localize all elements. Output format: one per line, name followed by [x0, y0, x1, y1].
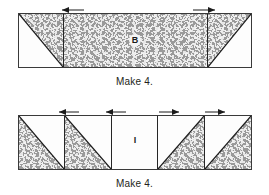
unit-b-caption: Make 4.	[0, 76, 269, 87]
press-arrow-left-b	[60, 4, 86, 13]
unit-b-left-hst	[19, 14, 64, 67]
unit-b-label: B	[129, 34, 141, 46]
press-arrow-3-i	[157, 106, 181, 115]
press-arrow-2-i	[104, 106, 128, 115]
seam-diagonal-icon	[65, 116, 111, 169]
unit-i-hst-4	[205, 116, 251, 169]
unit-i-label: I	[128, 136, 142, 145]
press-arrow-1-i	[57, 106, 81, 115]
press-arrow-right-b	[191, 4, 217, 13]
unit-i-caption: Make 4.	[0, 178, 269, 189]
seam-diagonal-icon	[208, 14, 251, 67]
press-arrow-4-i	[203, 106, 227, 115]
unit-b-right-hst	[208, 14, 251, 67]
seam-diagonal-icon	[205, 116, 251, 169]
unit-i-hst-1	[19, 116, 65, 169]
seam-diagonal-icon	[158, 116, 204, 169]
unit-i-hst-2	[65, 116, 112, 169]
seam-diagonal-icon	[19, 116, 64, 169]
seam-diagonal-icon	[19, 14, 63, 67]
unit-i-hst-3	[158, 116, 205, 169]
